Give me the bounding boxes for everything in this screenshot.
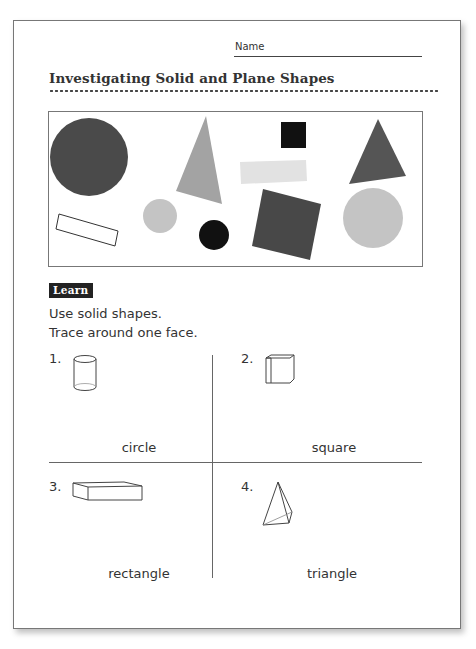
rectangular-prism-icon: [72, 481, 146, 503]
learn-badge: Learn: [49, 283, 93, 298]
small-black-circle: [199, 220, 229, 250]
name-input-line[interactable]: [234, 56, 422, 57]
dotted-divider: [49, 89, 439, 93]
name-label: Name: [235, 41, 265, 52]
cube-icon: [264, 354, 296, 388]
worksheet-page: Name Investigating Solid and Plane Shape…: [13, 20, 461, 629]
exercise-2-number: 2.: [241, 351, 253, 366]
small-light-circle: [143, 199, 177, 233]
horizontal-divider: [49, 462, 422, 463]
instruction-line-2: Trace around one face.: [49, 325, 198, 340]
exercise-2-answer: square: [254, 440, 414, 455]
pyramid-icon: [262, 481, 296, 527]
dark-triangle: [349, 119, 406, 184]
exercise-3-number: 3.: [49, 479, 61, 494]
plane-shapes-illustration: [49, 112, 422, 266]
exercise-1-answer: circle: [59, 440, 219, 455]
exercise-4-answer: triangle: [252, 566, 412, 581]
large-dark-circle: [50, 118, 128, 196]
instruction-line-1: Use solid shapes.: [49, 306, 162, 321]
cylinder-icon: [72, 354, 98, 394]
small-black-square: [281, 122, 306, 148]
exercise-1-number: 1.: [49, 351, 61, 366]
exercise-3-answer: rectangle: [59, 566, 219, 581]
outlined-rectangle: [56, 214, 118, 246]
vertical-divider: [212, 355, 213, 578]
exercise-4-number: 4.: [241, 479, 253, 494]
light-rectangle: [240, 160, 307, 184]
medium-light-circle: [343, 188, 403, 248]
dark-square: [252, 189, 321, 260]
page-title: Investigating Solid and Plane Shapes: [49, 70, 335, 86]
gray-triangle: [176, 116, 222, 204]
plane-shapes-panel: [48, 111, 423, 267]
